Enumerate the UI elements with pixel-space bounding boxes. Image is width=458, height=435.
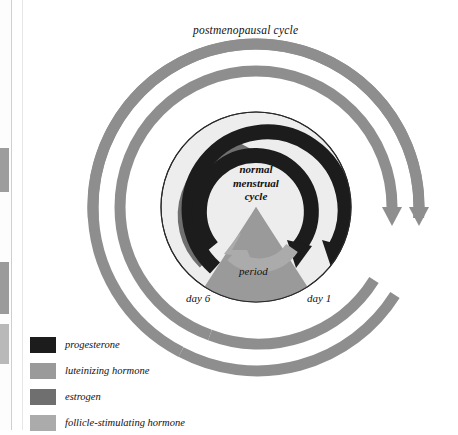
legend-swatch [30, 337, 56, 353]
legend-label: luteinizing hormone [65, 365, 149, 376]
legend: progesterone luteinizing hormone estroge… [30, 334, 230, 435]
legend-swatch [30, 363, 56, 379]
legend-label: estrogen [65, 391, 101, 402]
legend-swatch [30, 389, 56, 405]
center-label-line-3: cycle [215, 190, 297, 204]
day-6-label: day 6 [186, 292, 210, 304]
legend-swatch [30, 415, 56, 431]
postmenopausal-cycle-label: postmenopausal cycle [193, 24, 298, 36]
legend-item-follicle-stimulating-hormone: follicle-stimulating hormone [30, 412, 230, 433]
legend-item-luteinizing-hormone: luteinizing hormone [30, 360, 230, 381]
normal-menstrual-cycle-label: normal menstrual cycle [215, 163, 297, 204]
postmenopausal-arrowhead-outer [409, 207, 429, 226]
day-1-label: day 1 [307, 292, 331, 304]
legend-label: progesterone [65, 339, 120, 350]
legend-item-estrogen: estrogen [30, 386, 230, 407]
period-label: period [239, 265, 268, 277]
legend-item-progesterone: progesterone [30, 334, 230, 355]
postmenopausal-arrowhead-inner [382, 207, 402, 226]
center-label-line-1: normal [215, 163, 297, 177]
legend-label: follicle-stimulating hormone [65, 417, 185, 428]
center-label-line-2: menstrual [215, 177, 297, 191]
